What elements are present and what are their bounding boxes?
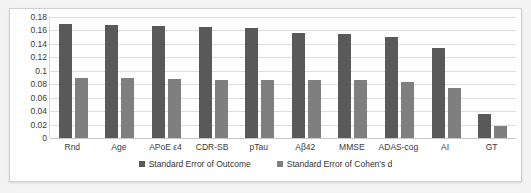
x-axis-tick-label: MMSE bbox=[329, 140, 376, 156]
bar-group bbox=[376, 17, 423, 138]
bar-group bbox=[50, 17, 97, 138]
bar-standard-error-of-outcome[interactable] bbox=[105, 25, 118, 138]
bar-standard-error-of-outcome[interactable] bbox=[152, 26, 165, 138]
y-axis-tick-label: 0.06 bbox=[14, 93, 47, 102]
legend-label: Standard Error of Outcome bbox=[149, 159, 251, 169]
bar-group bbox=[423, 17, 470, 138]
y-axis-tick-label: 0 bbox=[14, 134, 47, 143]
legend-swatch-icon bbox=[139, 161, 145, 167]
axis-baseline bbox=[50, 138, 516, 139]
bar-standard-error-of-cohens-d[interactable] bbox=[401, 82, 414, 138]
bar-standard-error-of-cohens-d[interactable] bbox=[168, 79, 181, 138]
bar-group bbox=[283, 17, 330, 138]
bar-standard-error-of-outcome[interactable] bbox=[432, 48, 445, 138]
plot-area bbox=[49, 17, 516, 138]
y-axis-tick-label: 0.12 bbox=[14, 53, 47, 62]
bar-standard-error-of-outcome[interactable] bbox=[59, 24, 72, 138]
bar-standard-error-of-cohens-d[interactable] bbox=[354, 80, 367, 138]
bar-standard-error-of-cohens-d[interactable] bbox=[261, 80, 274, 138]
chart-container: 0.180.160.140.120.10.080.060.040.020 Rnd… bbox=[9, 8, 522, 182]
bar-standard-error-of-outcome[interactable] bbox=[478, 114, 491, 138]
chart-legend: Standard Error of OutcomeStandard Error … bbox=[10, 159, 521, 169]
bar-standard-error-of-cohens-d[interactable] bbox=[448, 88, 461, 138]
bar-standard-error-of-outcome[interactable] bbox=[338, 34, 351, 138]
bar-group bbox=[190, 17, 237, 138]
x-axis-tick-label: CDR-SB bbox=[189, 140, 236, 156]
bar-group bbox=[97, 17, 144, 138]
y-axis-tick-label: 0.08 bbox=[14, 80, 47, 89]
bar-group bbox=[330, 17, 377, 138]
bar-standard-error-of-cohens-d[interactable] bbox=[494, 126, 507, 138]
y-axis-tick-label: 0.04 bbox=[14, 107, 47, 116]
x-axis-tick-label: GT bbox=[468, 140, 515, 156]
bar-standard-error-of-cohens-d[interactable] bbox=[121, 78, 134, 138]
y-axis-tick-label: 0.14 bbox=[14, 39, 47, 48]
screenshot-root: 0.180.160.140.120.10.080.060.040.020 Rnd… bbox=[0, 0, 531, 193]
x-axis-tick-label: APoE ε4 bbox=[142, 140, 189, 156]
bar-group bbox=[469, 17, 516, 138]
bar-groups bbox=[50, 17, 516, 138]
x-axis-tick-label: Rnd bbox=[49, 140, 96, 156]
x-axis-tick-label: pTau bbox=[235, 140, 282, 156]
legend-label: Standard Error of Cohen's d bbox=[287, 159, 393, 169]
chart-plot-wrapper: 0.180.160.140.120.10.080.060.040.020 Rnd… bbox=[10, 9, 521, 181]
legend-item[interactable]: Standard Error of Cohen's d bbox=[277, 159, 393, 169]
y-axis: 0.180.160.140.120.10.080.060.040.020 bbox=[14, 17, 47, 138]
bar-standard-error-of-outcome[interactable] bbox=[245, 28, 258, 138]
bar-standard-error-of-outcome[interactable] bbox=[199, 27, 212, 138]
x-axis-tick-label: ADAS-cog bbox=[375, 140, 422, 156]
x-axis-tick-label: Age bbox=[96, 140, 143, 156]
x-axis-tick-label: Aβ42 bbox=[282, 140, 329, 156]
legend-item[interactable]: Standard Error of Outcome bbox=[139, 159, 251, 169]
bar-standard-error-of-outcome[interactable] bbox=[385, 37, 398, 138]
bar-standard-error-of-cohens-d[interactable] bbox=[215, 80, 228, 138]
y-axis-tick-label: 0.16 bbox=[14, 26, 47, 35]
y-axis-tick-label: 0.18 bbox=[14, 13, 47, 22]
bar-group bbox=[236, 17, 283, 138]
bar-standard-error-of-outcome[interactable] bbox=[292, 33, 305, 138]
legend-swatch-icon bbox=[277, 161, 283, 167]
bar-standard-error-of-cohens-d[interactable] bbox=[308, 80, 321, 138]
bar-group bbox=[143, 17, 190, 138]
bar-standard-error-of-cohens-d[interactable] bbox=[75, 78, 88, 139]
y-axis-tick-label: 0.1 bbox=[14, 66, 47, 75]
y-axis-tick-label: 0.02 bbox=[14, 120, 47, 129]
x-axis-tick-label: AI bbox=[422, 140, 469, 156]
x-axis: RndAgeAPoE ε4CDR-SBpTauAβ42MMSEADAS-cogA… bbox=[49, 140, 515, 156]
